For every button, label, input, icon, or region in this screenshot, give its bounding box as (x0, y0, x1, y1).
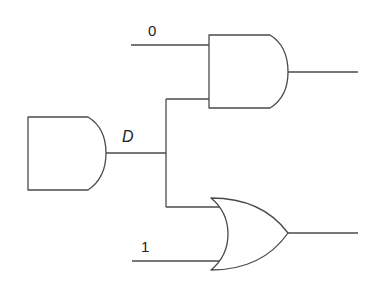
signal-d-label: D (122, 128, 134, 145)
upper-and-gate (209, 35, 288, 108)
logic-circuit-diagram: D 0 1 (0, 0, 381, 290)
lower-or-gate (211, 198, 288, 270)
input-1-label: 1 (141, 238, 149, 255)
source-and-gate (28, 117, 106, 190)
input-0-label: 0 (148, 22, 156, 39)
